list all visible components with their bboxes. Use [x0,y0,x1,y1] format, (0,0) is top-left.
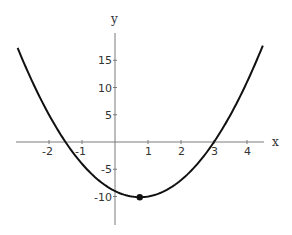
y-tick-label: -10 [94,191,112,204]
x-tick-label: 1 [145,145,152,158]
x-tick-label: 2 [178,145,185,158]
x-tick-label: -2 [42,145,53,158]
y-tick-label: 15 [98,54,112,67]
y-axis-label: y [110,12,118,26]
x-tick-label: 3 [211,145,218,158]
y-tick-label: 10 [98,82,112,95]
x-axis: -2-11234 x [16,135,279,158]
x-tick-label: 4 [244,145,251,158]
y-tick-label: -5 [101,163,112,176]
parabola-curve [18,46,263,198]
y-axis: 15105-5-10 y [94,12,118,225]
x-axis-label: x [272,135,279,149]
vertex-point [137,194,143,200]
parabola-plot: -2-11234 x 15105-5-10 y [0,0,292,235]
y-tick-label: 5 [105,109,112,122]
